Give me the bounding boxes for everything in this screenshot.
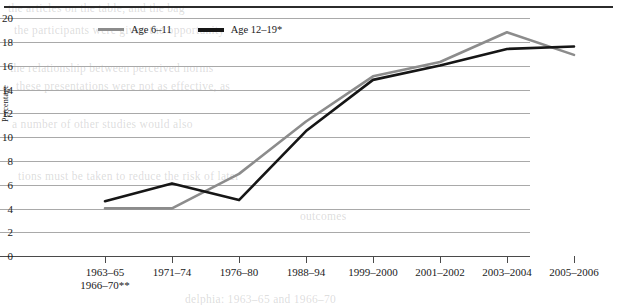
legend-swatch-icon [98, 28, 124, 31]
legend-swatch-icon [198, 28, 224, 32]
series-line-age-6-11 [105, 32, 574, 208]
series-line-age-12-19 [105, 47, 574, 202]
chart-legend: Age 6–11 Age 12–19* [98, 24, 282, 35]
legend-item-age-6-11: Age 6–11 [98, 24, 172, 35]
legend-item-age-12-19: Age 12–19* [198, 24, 283, 35]
legend-label-age-12-19: Age 12–19* [231, 24, 283, 35]
legend-label-age-6-11: Age 6–11 [131, 24, 172, 35]
